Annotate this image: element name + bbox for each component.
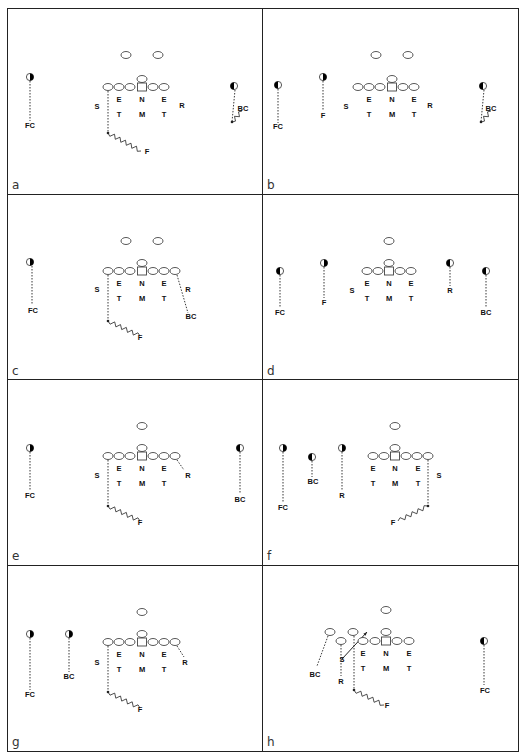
position-label: E <box>415 464 420 473</box>
position-label: R <box>185 471 191 480</box>
offensive-player-oval <box>137 445 147 452</box>
position-label: S <box>94 471 99 480</box>
position-label: M <box>139 479 145 488</box>
offensive-player-oval <box>370 637 380 644</box>
route-start-dot <box>107 690 110 693</box>
position-label: R <box>447 286 453 295</box>
position-label: F <box>322 298 327 307</box>
panel-label: a <box>12 178 19 192</box>
position-label: E <box>366 95 371 104</box>
offensive-player-oval <box>125 84 135 91</box>
offensive-player-oval <box>336 637 346 644</box>
position-label: F <box>138 518 143 527</box>
offensive-player-oval <box>170 267 180 274</box>
panel-f: ENETMTSRBCFCFf <box>262 379 519 566</box>
offensive-player-oval <box>121 237 131 244</box>
center-square <box>138 638 147 646</box>
route-start-dot <box>427 505 430 508</box>
offensive-player-oval <box>387 76 397 83</box>
offensive-player-oval <box>390 445 400 452</box>
offensive-player-oval <box>348 628 358 635</box>
position-label: E <box>370 464 375 473</box>
position-label: N <box>139 279 144 288</box>
half-filled-player-icon <box>230 82 237 89</box>
offensive-player-oval <box>170 453 180 460</box>
route-start-dot <box>107 319 110 322</box>
position-label: M <box>392 479 398 488</box>
position-label: F <box>385 701 390 710</box>
formation-diagram: ENETMTSRBCFCF <box>263 380 518 566</box>
position-label: BC <box>186 312 197 321</box>
offensive-player-oval <box>148 84 158 91</box>
position-label: N <box>383 649 388 658</box>
formation-diagram: ENETMTSRFCBCF <box>8 195 263 381</box>
position-label: T <box>162 294 167 303</box>
center-square <box>138 452 147 460</box>
panel-h: ENETMTSRBCFCFh <box>262 565 519 752</box>
position-label: R <box>185 285 191 294</box>
position-label: T <box>407 664 412 673</box>
formation-diagram: ENETMTSRFCBCF <box>8 380 263 566</box>
position-label: S <box>94 658 99 667</box>
position-label: T <box>409 294 414 303</box>
panel-c: ENETMTSRFCBCFc <box>7 194 264 381</box>
half-filled-player-icon <box>320 259 327 266</box>
position-label: E <box>411 95 416 104</box>
panel-a: ENETMTSRFCBCFa <box>7 8 264 195</box>
panel-d: ENETMTSRFCFBCd <box>262 194 519 381</box>
position-label: FC <box>28 306 39 315</box>
offensive-player-oval <box>125 267 135 274</box>
position-label: T <box>117 110 122 119</box>
position-label: FC <box>278 503 289 512</box>
position-label: BC <box>308 477 319 486</box>
offensive-player-oval <box>137 630 147 637</box>
position-label: M <box>389 110 395 119</box>
position-label: T <box>117 479 122 488</box>
position-label: T <box>416 479 421 488</box>
offensive-player-oval <box>114 638 124 645</box>
center-square <box>138 267 147 275</box>
half-filled-player-icon <box>482 267 489 274</box>
half-filled-player-icon <box>446 259 453 266</box>
position-label: M <box>386 294 392 303</box>
formation-diagram: ENETMTSRBCFCF <box>8 566 263 752</box>
route-start-dot <box>107 132 110 135</box>
panel-g: ENETMTSRBCFCFg <box>7 565 264 752</box>
position-label: E <box>116 464 121 473</box>
offensive-player-oval <box>103 638 113 645</box>
half-filled-player-icon <box>308 453 315 460</box>
offensive-player-oval <box>148 267 158 274</box>
position-label: M <box>139 110 145 119</box>
offensive-player-oval <box>371 52 381 59</box>
position-label: T <box>162 479 167 488</box>
position-label: F <box>138 333 143 342</box>
offensive-player-oval <box>170 638 180 645</box>
half-filled-player-icon <box>26 258 33 265</box>
position-label: T <box>162 110 167 119</box>
offensive-player-oval <box>137 423 147 430</box>
offensive-player-oval <box>159 84 169 91</box>
offensive-player-oval <box>381 606 391 613</box>
center-square <box>391 452 400 460</box>
position-label: M <box>139 294 145 303</box>
half-filled-player-icon <box>479 82 486 89</box>
offensive-player-oval <box>103 453 113 460</box>
position-label: BC <box>481 308 492 317</box>
position-label: S <box>436 471 441 480</box>
offensive-player-oval <box>379 453 389 460</box>
position-label: R <box>338 677 344 686</box>
half-filled-player-icon <box>26 73 33 80</box>
position-label: E <box>406 649 411 658</box>
position-label: S <box>343 102 348 111</box>
offensive-player-oval <box>137 76 147 83</box>
position-label: FC <box>25 690 36 699</box>
panel-label: f <box>267 549 271 563</box>
offensive-player-oval <box>373 267 383 274</box>
offensive-player-oval <box>395 267 405 274</box>
position-label: S <box>339 655 344 664</box>
panel-label: d <box>267 364 275 378</box>
offensive-player-oval <box>148 453 158 460</box>
position-label: N <box>139 95 144 104</box>
route-start-dot <box>353 688 356 691</box>
half-filled-player-icon <box>65 630 72 637</box>
